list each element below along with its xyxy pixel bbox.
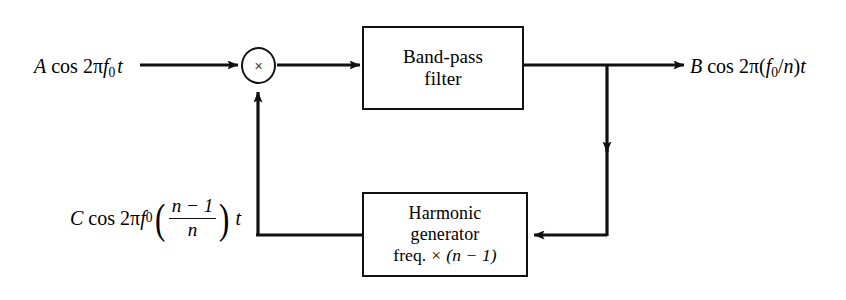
harmonic-generator-label-line3: freq.×(n − 1) [393, 245, 496, 266]
feedback-fraction-numerator: n − 1 [169, 196, 216, 218]
feedback-cos: cos [88, 208, 115, 228]
input-amplitude: A [34, 55, 46, 77]
block-diagram: × Band-pass filter Harmonic generator fr… [0, 0, 846, 300]
multiplier-node[interactable]: × [241, 47, 276, 84]
harmonic-expr: (n − 1) [446, 245, 496, 265]
output-divisor: n [784, 55, 794, 77]
output-open-paren: ( [759, 55, 766, 77]
harmonic-times-icon: × [431, 245, 441, 265]
output-amplitude: B [690, 55, 702, 77]
feedback-fraction-denominator: n [185, 219, 201, 241]
multiply-icon: × [254, 59, 262, 73]
input-signal-label: Acos2πf0t [34, 56, 123, 80]
feedback-amplitude: C [70, 208, 83, 228]
input-time: t [117, 55, 123, 77]
feedback-open-paren: ( [155, 201, 165, 236]
output-signal-label: Bcos2π(f0/n)t [690, 56, 806, 80]
feedback-two-pi: 2π [120, 208, 140, 228]
input-cos: cos [51, 55, 78, 77]
band-pass-filter-label-line2: filter [424, 68, 462, 90]
feedback-fraction: n − 1n [169, 196, 216, 241]
feedback-time: t [235, 208, 241, 228]
output-two-pi: 2π [739, 55, 759, 77]
feedback-close-paren: ) [219, 201, 229, 236]
output-time: t [800, 55, 806, 77]
output-frequency-subscript: 0 [771, 65, 778, 80]
feedback-frequency-subscript: 0 [146, 211, 153, 225]
input-frequency-subscript: 0 [109, 65, 116, 80]
output-cos: cos [707, 55, 734, 77]
harmonic-generator-block[interactable]: Harmonic generator freq.×(n − 1) [362, 192, 528, 277]
harmonic-freq-text: freq. [393, 245, 426, 265]
input-two-pi: 2π [83, 55, 103, 77]
harmonic-generator-label-line2: generator [411, 224, 480, 245]
band-pass-filter-label-line1: Band-pass [403, 46, 483, 68]
harmonic-generator-label-line1: Harmonic [409, 203, 482, 224]
band-pass-filter-block[interactable]: Band-pass filter [362, 26, 524, 110]
feedback-signal-label: Ccos2πf0(n − 1n)t [70, 196, 241, 241]
